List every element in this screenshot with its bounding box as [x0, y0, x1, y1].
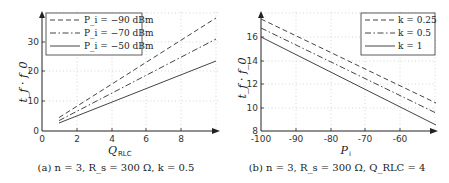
- xtick-b-90: -90: [289, 134, 304, 144]
- series-a-minus50: [59, 61, 216, 123]
- xtick-a-0: 0: [39, 134, 45, 144]
- figure: 0 10 20 30 0 2 4 6 8 P_i = −90 dBm P_i =…: [0, 0, 449, 183]
- legend-b-item-2: k = 1: [398, 41, 422, 51]
- legend-a-item-1: P_i = −70 dBm: [84, 28, 154, 39]
- xlabel-a-sub: RLC: [118, 150, 132, 158]
- panel-b: 8 10 12 14 16 -100 -90 -80 -70 -60 k = 0…: [236, 11, 438, 174]
- xtick-a-4: 4: [109, 134, 115, 144]
- legend-a: P_i = −90 dBm P_i = −70 dBm P_i = −50 dB…: [46, 13, 154, 55]
- ytick-a-30: 30: [28, 37, 40, 47]
- ytick-b-16: 16: [247, 32, 259, 42]
- ylabel-b: t_f · f_0: [236, 57, 249, 98]
- x-axis-arrow-icon: [430, 128, 438, 134]
- legend-b-item-1: k = 0.5: [398, 28, 431, 38]
- y-axis-arrow-icon: [258, 11, 264, 18]
- ytick-b-10: 10: [247, 103, 259, 113]
- xtick-b-70: -70: [358, 134, 373, 144]
- xlabel-b-sub: i: [349, 150, 351, 158]
- xtick-b-100: -100: [251, 134, 272, 144]
- legend-b-item-0: k = 0.25: [398, 15, 437, 25]
- xlabel-a: Q: [108, 144, 117, 157]
- xtick-b-80: -80: [324, 134, 339, 144]
- xlabel-b: P: [340, 144, 349, 157]
- caption-b: (b) n = 3, R_s = 300 Ω, Q_RLC = 4: [249, 162, 426, 174]
- legend-a-item-2: P_i = −50 dBm: [84, 41, 154, 52]
- legend-b: k = 0.25 k = 0.5 k = 1: [361, 13, 437, 55]
- caption-a: (a) n = 3, R_s = 300 Ω, k = 0.5: [38, 162, 195, 174]
- x-axis-arrow-icon: [212, 128, 220, 134]
- xtick-a-8: 8: [178, 134, 184, 144]
- y-axis-arrow-icon: [39, 11, 45, 18]
- legend-a-item-0: P_i = −90 dBm: [84, 15, 154, 26]
- panel-a: 0 10 20 30 0 2 4 6 8 P_i = −90 dBm P_i =…: [17, 11, 220, 174]
- xtick-a-2: 2: [74, 134, 80, 144]
- xtick-a-6: 6: [143, 134, 149, 144]
- xtick-b-60: -60: [393, 134, 408, 144]
- ylabel-a: t_f · f_0: [17, 61, 30, 102]
